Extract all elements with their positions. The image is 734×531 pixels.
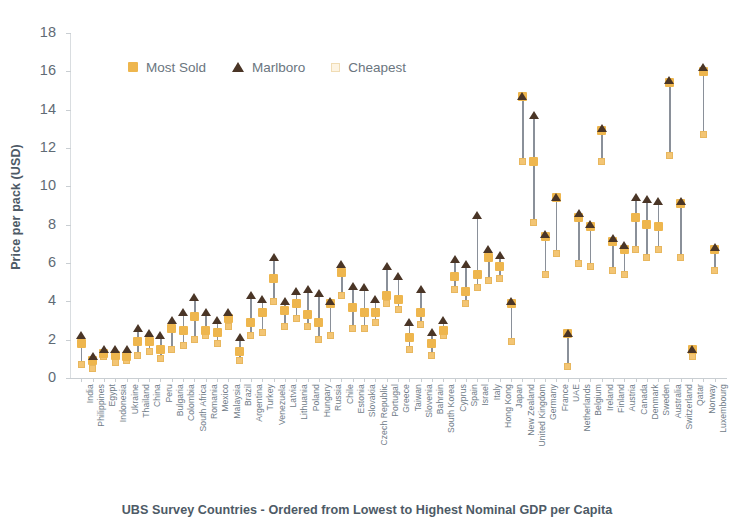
x-tick-label: Indonesia	[118, 384, 128, 422]
marker-most-sold	[450, 272, 459, 281]
x-tick-mark	[556, 378, 557, 382]
x-tick-mark	[432, 378, 433, 382]
marker-marlboro	[450, 255, 460, 263]
marker-cheapest	[225, 323, 232, 330]
x-tick-label: Netherlands	[582, 384, 592, 431]
legend-item-most-sold[interactable]: Most Sold	[128, 60, 206, 75]
x-tick-label: Greece	[401, 384, 411, 413]
x-tick-label: United Kingdom	[537, 384, 547, 447]
marker-cheapest	[711, 267, 718, 274]
x-tick-mark	[330, 378, 331, 382]
marker-marlboro	[393, 272, 403, 280]
marker-marlboro	[585, 220, 595, 228]
x-tick-label: Israel	[480, 384, 490, 406]
marker-most-sold	[167, 324, 176, 333]
marker-cheapest	[598, 158, 605, 165]
x-tick-label: Russia	[333, 384, 343, 411]
marker-marlboro	[517, 92, 527, 100]
range-stem	[669, 81, 671, 156]
marker-most-sold	[642, 220, 651, 229]
x-tick-label: Egypt	[107, 384, 117, 406]
marker-most-sold	[156, 345, 165, 354]
range-stem	[250, 296, 252, 336]
marker-marlboro	[291, 287, 301, 295]
marker-marlboro	[687, 345, 697, 353]
marker-most-sold	[246, 318, 255, 327]
marker-marlboro	[155, 331, 165, 339]
marker-marlboro	[416, 285, 426, 293]
marker-cheapest	[519, 158, 526, 165]
marker-most-sold	[461, 287, 470, 296]
marker-most-sold	[122, 352, 131, 361]
x-tick-label: Estonia	[356, 384, 366, 413]
x-tick-label: Slovakia	[367, 384, 377, 417]
marker-most-sold	[405, 333, 414, 342]
x-tick-mark	[715, 378, 716, 382]
marker-cheapest	[542, 271, 549, 278]
legend-label: Marlboro	[252, 60, 305, 75]
x-tick-mark	[500, 378, 501, 382]
x-tick-mark	[681, 378, 682, 382]
x-tick-mark	[274, 378, 275, 382]
marker-marlboro	[246, 291, 256, 299]
marker-cheapest	[530, 219, 537, 226]
marker-marlboro	[178, 308, 188, 316]
marker-cheapest	[643, 254, 650, 261]
marker-most-sold	[179, 326, 188, 335]
marker-cheapest	[496, 275, 503, 282]
x-tick-label: Poland	[311, 384, 321, 411]
x-tick-mark	[387, 378, 388, 382]
range-stem	[556, 198, 558, 254]
x-tick-label: Hong Kong	[503, 384, 513, 428]
y-tick-label: 14	[16, 102, 56, 117]
marker-marlboro	[303, 285, 313, 293]
x-tick-mark	[160, 378, 161, 382]
x-tick-label: Latvia	[288, 384, 298, 408]
marker-marlboro	[597, 124, 607, 132]
marker-marlboro	[382, 262, 392, 270]
marker-marlboro	[631, 193, 641, 201]
x-tick-mark	[636, 378, 637, 382]
x-axis-title: UBS Survey Countries - Ordered from Lowe…	[0, 503, 734, 517]
marker-cheapest	[281, 323, 288, 330]
marker-marlboro	[359, 283, 369, 291]
x-tick-label: Italy	[492, 384, 502, 400]
marker-most-sold	[280, 306, 289, 315]
marker-most-sold	[77, 339, 86, 348]
legend-item-marlboro[interactable]: Marlboro	[232, 60, 305, 75]
plot-area	[70, 33, 726, 378]
y-axis-title: Price per pack (USD)	[9, 107, 23, 307]
marker-most-sold	[348, 303, 357, 312]
x-tick-mark	[590, 378, 591, 382]
marker-cheapest	[666, 152, 673, 159]
y-tick-label: 10	[16, 178, 56, 193]
marker-most-sold	[337, 268, 346, 277]
marker-cheapest	[338, 292, 345, 299]
marker-cheapest	[112, 359, 119, 366]
chart-canvas: Price per pack (USD) 181614121086420 Ind…	[0, 0, 734, 531]
y-tick-label: 18	[16, 25, 56, 40]
x-tick-label: Norway	[707, 384, 717, 414]
marker-marlboro	[483, 245, 493, 253]
range-stem	[318, 294, 320, 340]
marker-marlboro	[710, 243, 720, 251]
marker-marlboro	[495, 251, 505, 259]
marker-most-sold	[213, 328, 222, 337]
x-tick-mark	[613, 378, 614, 382]
x-tick-mark	[115, 378, 116, 382]
marker-marlboro	[438, 316, 448, 324]
x-tick-mark	[353, 378, 354, 382]
marker-cheapest	[553, 250, 560, 257]
marker-marlboro	[653, 197, 663, 205]
square-marker-icon	[128, 62, 138, 72]
range-stem	[398, 276, 400, 309]
legend-item-cheapest[interactable]: Cheapest	[331, 60, 406, 75]
marker-cheapest	[168, 346, 175, 353]
x-tick-label: Austria	[627, 384, 637, 411]
marker-cheapest	[383, 300, 390, 307]
marker-marlboro	[99, 345, 109, 353]
x-tick-mark	[579, 378, 580, 382]
marker-cheapest	[474, 284, 481, 291]
marker-marlboro	[212, 316, 222, 324]
marker-cheapest	[575, 260, 582, 267]
